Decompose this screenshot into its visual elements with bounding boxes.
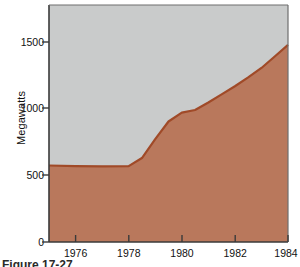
x-tick-label-1984: 1984 [266,248,300,259]
figure-caption: Figure 17-27 [2,259,73,267]
x-tick-label-1976: 1976 [56,248,96,259]
x-tick-label-1980: 1980 [162,248,202,259]
x-tick-label-1982: 1982 [215,248,255,259]
x-tick-label-1978: 1978 [109,248,149,259]
area-chart-plot [0,0,300,267]
figure-root: Megawatts 1500 1000 500 0 1976 197 [0,0,300,267]
